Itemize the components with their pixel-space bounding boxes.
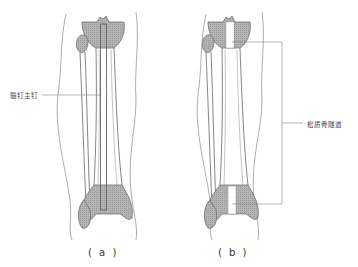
panel-b-leg	[197, 12, 263, 240]
proximal-tunnel	[226, 22, 234, 48]
caption-a: ( a )	[88, 247, 118, 258]
caption-b: ( b )	[218, 247, 249, 258]
diagram-canvas	[0, 0, 358, 267]
label-intramedullary-nail: 髓钉主钉	[10, 90, 38, 100]
panel-a-leg	[57, 12, 137, 240]
distal-tunnel	[228, 186, 236, 214]
intramedullary-nail	[101, 24, 107, 210]
label-cancellous-tunnel: 松质骨隧道	[307, 119, 342, 129]
